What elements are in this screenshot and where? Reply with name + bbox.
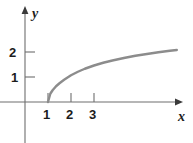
plot-svg bbox=[0, 0, 193, 143]
x-tick-label-3: 3 bbox=[89, 108, 96, 121]
y-axis-label: y bbox=[32, 7, 38, 21]
x-tick-label-1: 1 bbox=[43, 108, 50, 121]
x-tick-label-2: 2 bbox=[66, 108, 73, 121]
y-axis-arrow-icon bbox=[22, 6, 29, 14]
x-axis-arrow-icon bbox=[175, 99, 183, 106]
data-curve bbox=[48, 50, 177, 102]
x-axis-label: x bbox=[178, 110, 185, 124]
y-tick-label-1: 1 bbox=[11, 71, 18, 84]
y-tick-label-2: 2 bbox=[9, 46, 16, 59]
figure-canvas: 2 1 1 2 3 y x bbox=[0, 0, 193, 143]
